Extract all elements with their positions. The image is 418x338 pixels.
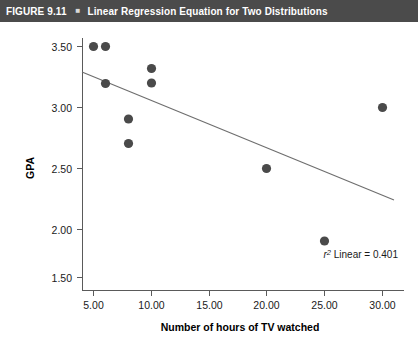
data-point [89,42,98,51]
data-point [124,114,133,123]
data-point [147,64,156,73]
data-point [124,139,133,148]
y-tick-label-150: 1.50 [52,272,73,284]
figure-container: FIGURE 9.11 ■ Linear Regression Equation… [0,0,418,338]
x-tick-label-30: 30.00 [369,299,395,311]
r-annotation-text: Linear = 0.401 [331,249,398,260]
y-axis-title: GPA [24,157,36,179]
x-tick-label-25: 25.00 [311,299,337,311]
figure-title: Linear Regression Equation for Two Distr… [87,6,327,17]
data-point [101,79,110,88]
square-bullet-icon: ■ [76,7,81,15]
y-tick-label-300: 3.00 [52,102,73,114]
data-point [320,236,329,245]
chart-svg: 3.50 3.00 2.50 2.00 1.50 5.00 10.00 15.0… [0,22,418,338]
data-point [147,78,156,87]
x-tick-label-15: 15.00 [196,299,222,311]
scatter-plot: 3.50 3.00 2.50 2.00 1.50 5.00 10.00 15.0… [0,22,418,338]
r-squared-annotation: r2 Linear = 0.401 [323,248,398,261]
figure-number: FIGURE 9.11 [6,6,67,17]
data-point [262,164,271,173]
y-axis-ticks: 3.50 3.00 2.50 2.00 1.50 [52,41,83,284]
regression-line [82,72,394,200]
x-tick-label-10: 10.00 [138,299,164,311]
figure-header-bar: FIGURE 9.11 ■ Linear Regression Equation… [0,0,418,22]
x-axis-title: Number of hours of TV watched [161,321,320,333]
y-tick-label-250: 2.50 [52,163,73,175]
x-axis-ticks: 5.00 10.00 15.00 20.00 25.00 30.00 [83,291,396,312]
x-tick-label-5: 5.00 [83,299,104,311]
data-points [89,42,387,246]
data-point [101,42,110,51]
y-tick-label-200: 2.00 [52,224,73,236]
x-tick-label-20: 20.00 [253,299,279,311]
y-tick-label-350: 3.50 [52,41,73,53]
data-point [378,103,387,112]
